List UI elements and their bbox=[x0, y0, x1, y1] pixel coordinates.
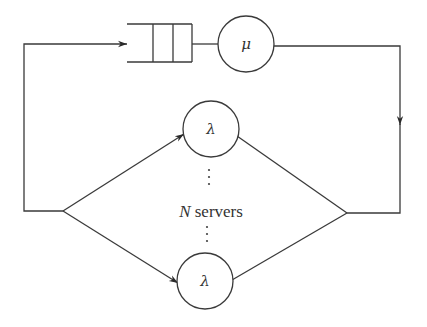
fork-arrow-top bbox=[63, 134, 184, 211]
lambda-server-bottom: λ bbox=[177, 253, 233, 309]
join-line-top bbox=[237, 136, 347, 213]
lambda-symbol-top: λ bbox=[205, 120, 216, 138]
queue-buffer bbox=[127, 24, 192, 62]
servers-text: servers bbox=[190, 202, 242, 221]
feedback-path-right bbox=[274, 46, 400, 125]
feedback-path-right-lower bbox=[347, 124, 400, 213]
feedback-path-left bbox=[24, 44, 127, 211]
fork-arrow-bottom bbox=[63, 211, 178, 283]
lambda-symbol-bottom: λ bbox=[199, 272, 210, 290]
mu-server-node: μ bbox=[218, 16, 274, 72]
join-line-bottom bbox=[232, 213, 347, 280]
mu-symbol: μ bbox=[241, 35, 251, 53]
n-servers-label: N servers bbox=[178, 202, 243, 221]
lambda-server-top: λ bbox=[183, 101, 239, 157]
ellipsis-top bbox=[208, 169, 210, 185]
queueing-network-diagram: μ λ λ N servers bbox=[0, 0, 427, 327]
ellipsis-bottom bbox=[206, 226, 208, 242]
